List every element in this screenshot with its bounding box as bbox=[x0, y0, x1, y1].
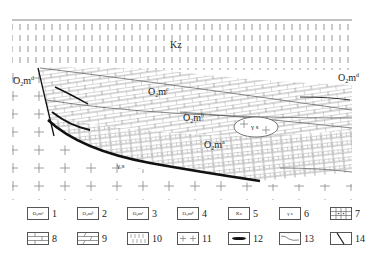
label-o2md-left: O2md bbox=[13, 73, 34, 89]
legend-number: 8 bbox=[52, 233, 57, 244]
label-o2mb: O2mb bbox=[183, 110, 204, 126]
legend-item-14: 14 bbox=[330, 232, 365, 245]
legend-item-9: 9 bbox=[77, 232, 107, 245]
legend-number: 13 bbox=[304, 233, 314, 244]
dolomite-grid-icon bbox=[330, 207, 352, 220]
legend-item-11: 11 bbox=[177, 232, 212, 245]
label-kz: Kz bbox=[170, 40, 182, 50]
legend-item-13: 13 bbox=[279, 232, 314, 245]
legend-item-2: O₂mᵇ 2 bbox=[77, 207, 107, 220]
legend-number: 3 bbox=[152, 208, 157, 219]
legend-number: 9 bbox=[102, 233, 107, 244]
label-o2md-right: O2md bbox=[338, 70, 359, 86]
legend-item-12: 12 bbox=[228, 232, 263, 245]
legend-item-4: O₂mᵈ 4 bbox=[177, 207, 207, 220]
boundary-line-icon bbox=[279, 232, 301, 245]
legend-item-7: 7 bbox=[330, 207, 360, 220]
legend-number: 10 bbox=[152, 233, 162, 244]
fault-icon bbox=[330, 232, 352, 245]
label-gamma-s-basement: γ s bbox=[117, 161, 125, 171]
label-gamma-s-lens: γ s bbox=[251, 122, 259, 132]
coal-lens-icon bbox=[228, 232, 250, 245]
legend-box-o2ma: O₂mᵃ bbox=[27, 207, 49, 220]
legend-number: 11 bbox=[202, 233, 212, 244]
legend-number: 5 bbox=[253, 208, 258, 219]
legend-item-5: Kz 5 bbox=[228, 207, 258, 220]
label-o2mc: O2mc bbox=[148, 84, 169, 100]
legend-item-3: O₂mᶜ 3 bbox=[127, 207, 157, 220]
legend-item-1: O₂mᵃ 1 bbox=[27, 207, 57, 220]
legend-number: 12 bbox=[253, 233, 263, 244]
dolomitic-limestone-icon bbox=[77, 232, 99, 245]
legend-item-8: 8 bbox=[27, 232, 57, 245]
label-o2ma: O2ma bbox=[204, 137, 225, 153]
legend-box-o2mb: O₂mᵇ bbox=[77, 207, 99, 220]
legend-number: 1 bbox=[52, 208, 57, 219]
legend-number: 2 bbox=[102, 208, 107, 219]
legend-item-10: 10 bbox=[127, 232, 162, 245]
loess-icon bbox=[127, 232, 149, 245]
legend-number: 4 bbox=[202, 208, 207, 219]
legend-box-o2md: O₂mᵈ bbox=[177, 207, 199, 220]
legend-box-gamma-s: γ s bbox=[279, 207, 301, 220]
legend-item-6: γ s 6 bbox=[279, 207, 309, 220]
legend-number: 14 bbox=[355, 233, 365, 244]
limestone-icon bbox=[27, 232, 49, 245]
legend-number: 7 bbox=[355, 208, 360, 219]
legend-box-kz: Kz bbox=[228, 207, 250, 220]
legend-number: 6 bbox=[304, 208, 309, 219]
legend-box-o2mc: O₂mᶜ bbox=[127, 207, 149, 220]
granite-cross-icon bbox=[177, 232, 199, 245]
